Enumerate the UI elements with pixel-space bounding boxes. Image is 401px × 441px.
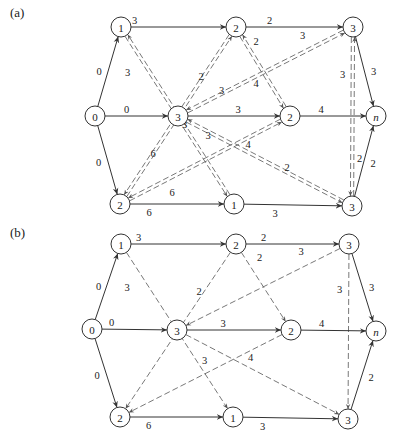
node-n: n [366, 321, 386, 341]
solid-edge-label: 3 [132, 15, 137, 26]
node-label: 2 [288, 325, 294, 337]
solid-edge-label: 2 [370, 158, 375, 169]
dashed-edge-label: 2 [357, 153, 362, 164]
dashed-edge-label: 2 [196, 286, 201, 297]
node-m3: 3 [167, 320, 187, 340]
node-b1: 1 [223, 407, 243, 427]
node-label: 2 [117, 199, 123, 211]
solid-edge-label: 3 [272, 208, 277, 219]
dashed-edge-label: 4 [245, 139, 251, 150]
dashed-edge-label: 2 [198, 71, 203, 82]
dashed-edge-label: 3 [125, 67, 130, 78]
node-label: 1 [118, 22, 124, 34]
solid-edge-label: 0 [94, 370, 99, 381]
node-label: 3 [174, 325, 180, 337]
solid-edge-label: 2 [261, 232, 266, 243]
node-b2: 2 [110, 194, 130, 214]
node-label: n [373, 111, 379, 123]
node-t2: 2 [226, 17, 246, 37]
node-m2: 2 [280, 106, 300, 126]
dashed-edge-label: 3 [205, 130, 210, 141]
node-label: 3 [345, 414, 351, 426]
node-m2: 2 [281, 320, 301, 340]
node-b2: 2 [110, 407, 130, 427]
dashed-edge [348, 254, 349, 409]
dashed-edge-label: 2 [253, 36, 258, 47]
node-label: 3 [175, 111, 181, 123]
dashed-edge-label: 3 [340, 69, 345, 80]
dashed-edge-label: 3 [300, 30, 305, 41]
panel-a: (a)3326243346323200032334632012332n213 [10, 5, 386, 219]
dashed-edge-label: 3 [219, 85, 224, 96]
solid-edge-label: 0 [96, 281, 101, 292]
dashed-edge-backward [243, 35, 287, 107]
dashed-edge-forward [186, 30, 343, 110]
node-label: 2 [233, 239, 239, 251]
node-label: 0 [89, 324, 95, 336]
dashed-edge-label: 4 [253, 78, 259, 89]
solid-edge-label: 3 [371, 66, 376, 77]
dashed-edge-label: 3 [337, 284, 342, 295]
dashed-edge-backward [188, 119, 344, 200]
node-label: 1 [118, 239, 124, 251]
node-s: 0 [85, 106, 105, 126]
dashed-edge-label: 6 [150, 148, 155, 159]
node-label: 3 [346, 239, 352, 251]
node-b3: 3 [342, 196, 362, 216]
solid-edge-label: 0 [96, 66, 101, 77]
node-label: 3 [350, 22, 356, 34]
dashed-edge-label: 2 [257, 252, 262, 263]
node-t3: 3 [339, 234, 359, 254]
node-label: 0 [92, 111, 98, 123]
network-diagram: (a)3326243346323200032334632012332n213 (… [0, 0, 401, 441]
dashed-edge-label: 3 [298, 246, 303, 257]
node-t2: 2 [226, 234, 246, 254]
node-m3: 3 [168, 106, 188, 126]
solid-edge [244, 204, 342, 206]
solid-edge-label: 4 [318, 104, 324, 115]
solid-edge-label: 6 [146, 207, 151, 218]
node-t1: 1 [111, 234, 131, 254]
node-label: 2 [233, 22, 239, 34]
solid-edge-label: 3 [260, 421, 265, 432]
node-t1: 1 [111, 17, 131, 37]
dashed-edge-backward [354, 37, 355, 196]
dashed-edge [186, 248, 340, 325]
solid-edge-label: 3 [220, 318, 225, 329]
dashed-edge [129, 335, 282, 413]
dashed-edge-forward [240, 36, 284, 108]
dashed-edge-label: 6 [169, 187, 174, 198]
solid-edge-label: 3 [369, 282, 374, 293]
dashed-edge-backward [188, 33, 345, 113]
panel-b: (b)322343300032334632012332n213 [10, 225, 386, 432]
dashed-edge-label: 4 [248, 352, 254, 363]
dashed-edge [186, 335, 339, 415]
node-label: 1 [231, 199, 237, 211]
node-n: n [366, 106, 386, 126]
panel-label: (b) [10, 225, 25, 240]
solid-edge-label: 2 [368, 372, 373, 383]
solid-edge-label: 6 [146, 420, 151, 431]
node-label: 3 [349, 201, 355, 213]
solid-edge [102, 329, 167, 330]
solid-edge-label: 0 [109, 317, 114, 328]
solid-edge-label: 0 [124, 104, 129, 115]
node-t3: 3 [343, 17, 363, 37]
node-label: 2 [117, 412, 123, 424]
node-label: n [373, 326, 379, 338]
node-label: 2 [287, 111, 293, 123]
node-label: 1 [230, 412, 236, 424]
panel-label: (a) [10, 5, 24, 20]
solid-edge-label: 4 [319, 318, 325, 329]
solid-edge-label: 3 [235, 104, 240, 115]
node-s: 0 [82, 319, 102, 339]
node-b3: 3 [338, 409, 358, 429]
node-b1: 1 [224, 194, 244, 214]
dashed-edge-label: 3 [202, 355, 207, 366]
solid-edge [243, 417, 338, 419]
solid-edge-label: 0 [96, 157, 101, 168]
dashed-edge-label: 2 [284, 162, 289, 173]
solid-edge [301, 330, 366, 331]
dashed-edge-label: 3 [124, 282, 129, 293]
solid-edge-label: 2 [267, 15, 272, 26]
